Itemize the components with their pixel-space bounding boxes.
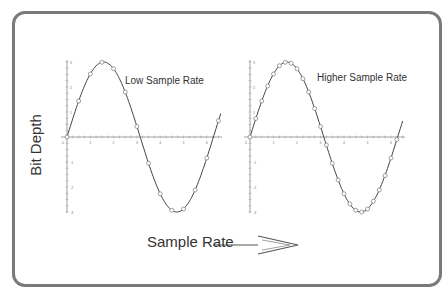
sample-point (395, 138, 399, 142)
sample-point (371, 199, 375, 203)
sample-point (295, 67, 299, 71)
svg-text:3: 3 (253, 61, 255, 65)
sample-point (354, 208, 358, 212)
sample-point (266, 84, 270, 88)
svg-text:2: 2 (70, 86, 72, 90)
svg-text:1: 1 (273, 141, 275, 145)
sample-point (205, 156, 209, 160)
sample-point (366, 207, 370, 211)
sample-point (77, 99, 81, 103)
sample-point (193, 188, 197, 192)
sample-point (330, 161, 334, 165)
sample-point (147, 161, 151, 165)
sample-point (377, 188, 381, 192)
svg-text:6: 6 (206, 141, 208, 145)
svg-text:-2: -2 (253, 186, 256, 190)
sample-point (65, 135, 69, 139)
svg-text:-3: -3 (70, 211, 73, 215)
sample-point (260, 99, 264, 103)
sample-point (88, 72, 92, 76)
svg-text:-1: -1 (70, 161, 73, 165)
sample-point (283, 60, 287, 64)
svg-text:4: 4 (159, 141, 161, 145)
sample-point (360, 210, 364, 214)
sample-point (389, 156, 393, 160)
svg-text:3: 3 (320, 141, 322, 145)
sample-point (319, 125, 323, 129)
panel-title-high: Higher Sample Rate (317, 72, 407, 83)
sample-point (248, 135, 252, 139)
svg-text:3: 3 (70, 61, 72, 65)
svg-text:6: 6 (390, 141, 392, 145)
svg-text:-1: -1 (253, 161, 256, 165)
x-axis-label: Sample Rate (147, 233, 234, 250)
svg-text:2: 2 (253, 86, 255, 90)
sample-point (254, 117, 258, 121)
svg-text:5: 5 (367, 141, 369, 145)
svg-text:2: 2 (296, 141, 298, 145)
panel-title-low: Low Sample Rate (125, 75, 204, 86)
svg-text:1: 1 (70, 111, 72, 115)
sample-point (324, 143, 328, 147)
svg-text:1: 1 (253, 111, 255, 115)
svg-text:0: 0 (62, 141, 64, 145)
sample-point (216, 119, 220, 123)
sample-point (182, 207, 186, 211)
sample-point (289, 61, 293, 65)
panel-higher-sample-rate: 0123456321-1-2-3 (244, 60, 405, 215)
svg-text:3: 3 (136, 141, 138, 145)
sample-point (100, 60, 104, 64)
sample-point (112, 67, 116, 71)
sample-point (313, 107, 317, 111)
svg-text:1: 1 (89, 141, 91, 145)
svg-text:5: 5 (183, 141, 185, 145)
sample-point (123, 90, 127, 94)
sample-point (158, 192, 162, 196)
sample-point (307, 90, 311, 94)
svg-text:2: 2 (113, 141, 115, 145)
sample-point (301, 77, 305, 81)
sample-point (170, 208, 174, 212)
sample-point (342, 192, 346, 196)
svg-text:4: 4 (343, 141, 345, 145)
svg-text:-2: -2 (70, 186, 73, 190)
y-axis-label: Bit Depth (27, 114, 44, 176)
svg-text:0: 0 (245, 141, 247, 145)
sample-point (336, 178, 340, 182)
sample-point (383, 174, 387, 178)
sample-point (348, 202, 352, 206)
sample-point (135, 125, 139, 129)
sample-point (272, 72, 276, 76)
svg-text:-3: -3 (253, 211, 256, 215)
sample-point (277, 64, 281, 68)
